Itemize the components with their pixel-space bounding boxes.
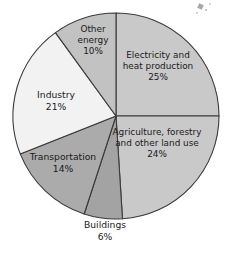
pie-chart-svg: Electricity andheat production25%Agricul… xyxy=(0,0,231,255)
pie-slice-group xyxy=(13,13,219,219)
pie-chart-figure: Electricity andheat production25%Agricul… xyxy=(0,0,231,255)
pie-label-buildings: Buildings6% xyxy=(84,219,126,241)
